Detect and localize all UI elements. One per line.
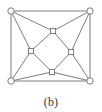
- graph-edge: [53, 31, 71, 52]
- figure-container: (b): [0, 0, 102, 112]
- graph-edge: [71, 52, 90, 81]
- graph-node-square: [49, 69, 54, 74]
- graph-edge: [31, 31, 53, 51]
- graph-edge: [11, 11, 31, 51]
- graph-node-square: [68, 49, 73, 54]
- graph-edge: [11, 72, 52, 81]
- graph-edge: [11, 11, 53, 31]
- graph-edge: [71, 11, 90, 52]
- node-layer: [8, 8, 93, 84]
- graph-edge: [52, 72, 90, 81]
- figure-caption: (b): [0, 92, 102, 112]
- graph-node-square: [28, 48, 33, 53]
- graph-edge: [53, 11, 90, 31]
- graph-svg: [0, 0, 102, 92]
- graph-node-circle: [87, 8, 93, 14]
- graph-node-circle: [87, 78, 93, 84]
- graph-edge: [11, 51, 31, 81]
- graph-node-circle: [8, 8, 14, 14]
- graph-edge: [31, 51, 52, 72]
- graph-node-circle: [8, 78, 14, 84]
- graph-drawing-area: [0, 0, 102, 92]
- graph-node-square: [50, 28, 55, 33]
